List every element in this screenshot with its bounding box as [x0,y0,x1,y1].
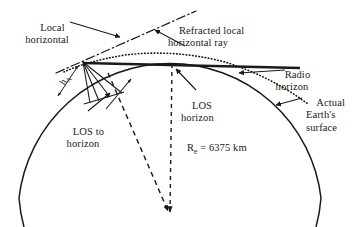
label-actual-earth-surface: Actual Earth's surface [306,84,345,147]
apex-ray-2 [83,62,110,97]
label-refracted-ray-text: Refracted local horizontal ray [168,25,244,49]
apex-ray-4 [83,62,90,103]
label-local-horizontal-text: Local horizontal [25,22,69,46]
label-los-to-horizon: LOS to horizon [52,113,114,163]
radio-horizon-diagram: Local horizontal Refracted local horizon… [0,0,361,227]
label-los-horizon-text: LOS horizon [181,100,214,124]
label-local-horizontal: Local horizontal [16,9,78,59]
label-los-to-horizon-text: LOS to horizon [67,126,104,150]
label-earth-radius-symbol: R [187,142,194,153]
earth-surface-arc-left-tail [19,198,24,227]
label-earth-radius: Re = 6375 km [176,129,247,171]
label-earth-radius-value: = 6375 km [197,142,246,153]
earth-surface-arc-right-tail [316,198,321,227]
label-actual-earth-surface-text: Actual Earth's surface [306,97,345,133]
earth-radius-dashed-line [170,64,172,212]
los-to-horizon-dashed-line [108,73,168,211]
label-refracted-ray: Refracted local horizontal ray [168,12,244,62]
